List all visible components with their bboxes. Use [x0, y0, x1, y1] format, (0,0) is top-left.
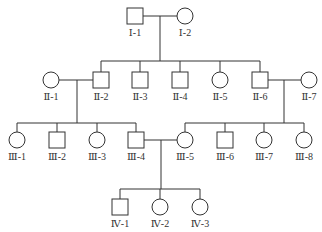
- individual-label: Ⅲ-3: [88, 151, 106, 162]
- individual-iii-6: Ⅲ-6: [216, 132, 234, 162]
- female-circle-icon: [192, 199, 208, 215]
- individual-iv-3: Ⅳ-3: [191, 199, 209, 229]
- individual-ii-3: Ⅱ-3: [132, 72, 148, 102]
- individual-label: Ⅲ-4: [127, 151, 145, 162]
- individual-iv-1: Ⅳ-1: [111, 199, 129, 229]
- individual-label: Ⅲ-7: [255, 151, 273, 162]
- individual-label: Ⅱ-7: [301, 91, 316, 102]
- individual-i-1: Ⅰ-1: [127, 8, 143, 38]
- male-square-icon: [112, 199, 128, 215]
- female-circle-icon: [301, 72, 317, 88]
- male-square-icon: [252, 72, 268, 88]
- individual-label: Ⅲ-5: [176, 151, 194, 162]
- individual-label: Ⅰ-1: [129, 27, 141, 38]
- individual-ii-7: Ⅱ-7: [301, 72, 317, 102]
- individual-label: Ⅲ-8: [295, 151, 313, 162]
- individual-ii-4: Ⅱ-4: [172, 72, 188, 102]
- female-circle-icon: [43, 72, 59, 88]
- female-circle-icon: [177, 8, 193, 24]
- male-square-icon: [127, 8, 143, 24]
- individual-label: Ⅱ-2: [93, 91, 108, 102]
- individual-ii-5: Ⅱ-5: [212, 72, 228, 102]
- individual-label: Ⅳ-3: [191, 218, 209, 229]
- individual-iii-3: Ⅲ-3: [88, 132, 106, 162]
- individual-iii-8: Ⅲ-8: [295, 132, 313, 162]
- individual-ii-2: Ⅱ-2: [93, 72, 109, 102]
- individual-i-2: Ⅰ-2: [177, 8, 193, 38]
- female-circle-icon: [89, 132, 105, 148]
- individual-label: Ⅱ-4: [172, 91, 187, 102]
- pedigree-chart: Ⅰ-1Ⅰ-2Ⅱ-1Ⅱ-2Ⅱ-3Ⅱ-4Ⅱ-5Ⅱ-6Ⅱ-7Ⅲ-1Ⅲ-2Ⅲ-3Ⅲ-4Ⅲ…: [0, 0, 322, 232]
- individual-iii-1: Ⅲ-1: [8, 132, 26, 162]
- individual-label: Ⅰ-2: [179, 27, 191, 38]
- female-circle-icon: [152, 199, 168, 215]
- pedigree-svg: Ⅰ-1Ⅰ-2Ⅱ-1Ⅱ-2Ⅱ-3Ⅱ-4Ⅱ-5Ⅱ-6Ⅱ-7Ⅲ-1Ⅲ-2Ⅲ-3Ⅲ-4Ⅲ…: [0, 0, 322, 232]
- male-square-icon: [132, 72, 148, 88]
- individual-label: Ⅲ-6: [216, 151, 234, 162]
- male-square-icon: [49, 132, 65, 148]
- female-circle-icon: [177, 132, 193, 148]
- individual-label: Ⅱ-6: [252, 91, 267, 102]
- individual-ii-1: Ⅱ-1: [43, 72, 59, 102]
- individual-label: Ⅱ-1: [43, 91, 58, 102]
- individual-label: Ⅱ-5: [212, 91, 227, 102]
- male-square-icon: [172, 72, 188, 88]
- male-square-icon: [217, 132, 233, 148]
- individual-iii-5: Ⅲ-5: [176, 132, 194, 162]
- male-square-icon: [93, 72, 109, 88]
- individual-label: Ⅳ-1: [111, 218, 129, 229]
- individual-ii-6: Ⅱ-6: [252, 72, 268, 102]
- female-circle-icon: [296, 132, 312, 148]
- individual-label: Ⅱ-3: [132, 91, 147, 102]
- individual-iv-2: Ⅳ-2: [151, 199, 169, 229]
- individual-label: Ⅲ-2: [48, 151, 66, 162]
- male-square-icon: [128, 132, 144, 148]
- female-circle-icon: [212, 72, 228, 88]
- individual-label: Ⅲ-1: [8, 151, 26, 162]
- individual-iii-7: Ⅲ-7: [255, 132, 273, 162]
- individual-iii-2: Ⅲ-2: [48, 132, 66, 162]
- female-circle-icon: [9, 132, 25, 148]
- individual-iii-4: Ⅲ-4: [127, 132, 145, 162]
- individual-label: Ⅳ-2: [151, 218, 169, 229]
- female-circle-icon: [256, 132, 272, 148]
